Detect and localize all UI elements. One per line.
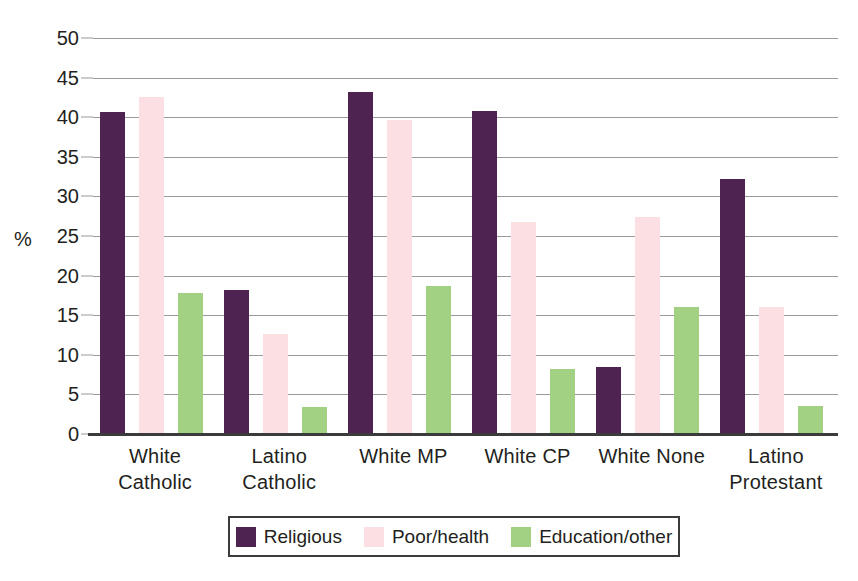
- legend-label: Education/other: [539, 526, 672, 548]
- y-tick-label: 45: [1, 68, 79, 88]
- category-label-line: White None: [590, 444, 714, 470]
- y-tick-label: 40: [1, 107, 79, 127]
- y-tick-label: 10: [1, 345, 79, 365]
- x-axis-category-label: White CP: [466, 444, 590, 470]
- plot-area: 05101520253035404550: [93, 38, 838, 434]
- y-tick-label: 15: [1, 305, 79, 325]
- category-label-line: Latino: [714, 444, 838, 470]
- x-axis-category-label: LatinoCatholic: [217, 444, 341, 495]
- legend-swatch-education: [511, 527, 531, 547]
- bars-layer: [93, 38, 838, 434]
- y-tick-label: 50: [1, 28, 79, 48]
- bar: [139, 97, 164, 434]
- category-label-line: Protestant: [714, 470, 838, 496]
- bar: [224, 290, 249, 434]
- y-tick-label: 0: [1, 424, 79, 444]
- legend-label: Religious: [264, 526, 342, 548]
- y-tick-mark: [81, 77, 93, 78]
- category-label-line: White CP: [466, 444, 590, 470]
- y-tick-label: 20: [1, 266, 79, 286]
- legend-swatch-poorhealth: [364, 527, 384, 547]
- y-tick-mark: [81, 236, 93, 237]
- legend-label: Poor/health: [392, 526, 489, 548]
- y-tick-mark: [81, 38, 93, 39]
- legend-swatch-religious: [236, 527, 256, 547]
- y-tick-label: 30: [1, 186, 79, 206]
- bar: [426, 286, 451, 434]
- y-tick-mark: [81, 354, 93, 355]
- y-tick-mark: [81, 117, 93, 118]
- bar: [674, 307, 699, 435]
- category-label-line: Catholic: [217, 470, 341, 496]
- y-tick-label: 25: [1, 226, 79, 246]
- legend-item: Education/other: [511, 526, 672, 548]
- x-axis-category-label: White None: [590, 444, 714, 470]
- y-tick-mark: [81, 275, 93, 276]
- legend-item: Poor/health: [364, 526, 489, 548]
- y-tick-label: 35: [1, 147, 79, 167]
- x-axis-category-label: White MP: [341, 444, 465, 470]
- x-axis-line: [88, 433, 838, 436]
- category-label-line: Latino: [217, 444, 341, 470]
- y-tick-mark: [81, 394, 93, 395]
- bar-chart: % 05101520253035404550 WhiteCatholicLati…: [0, 0, 858, 581]
- y-tick-label: 5: [1, 384, 79, 404]
- category-label-line: White MP: [341, 444, 465, 470]
- category-label-line: Catholic: [93, 470, 217, 496]
- bar: [100, 112, 125, 434]
- x-axis-category-label: WhiteCatholic: [93, 444, 217, 495]
- x-axis-category-label: LatinoProtestant: [714, 444, 838, 495]
- bar: [263, 334, 288, 434]
- legend-item: Religious: [236, 526, 342, 548]
- bar: [635, 217, 660, 434]
- bar: [798, 406, 823, 434]
- y-tick-mark: [81, 156, 93, 157]
- bar: [348, 92, 373, 434]
- bar: [759, 307, 784, 435]
- y-tick-mark: [81, 196, 93, 197]
- bar: [596, 367, 621, 434]
- bar: [550, 369, 575, 434]
- bar: [511, 222, 536, 434]
- bar: [472, 111, 497, 434]
- bar: [720, 179, 745, 434]
- chart-legend: ReligiousPoor/healthEducation/other: [228, 516, 680, 557]
- bar: [178, 293, 203, 434]
- bar: [387, 120, 412, 434]
- y-tick-mark: [81, 315, 93, 316]
- category-label-line: White: [93, 444, 217, 470]
- bar: [302, 407, 327, 434]
